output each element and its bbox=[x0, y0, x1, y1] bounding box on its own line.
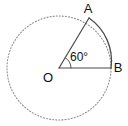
label-angle-measure: 60° bbox=[70, 50, 88, 64]
label-point-o-center: O bbox=[43, 70, 53, 85]
label-point-a: A bbox=[84, 1, 93, 16]
circle-diagram-svg: A B O 60° bbox=[0, 0, 128, 126]
label-point-b: B bbox=[114, 60, 123, 75]
geometry-figure: A B O 60° bbox=[0, 0, 128, 126]
arc-ab-solid bbox=[89, 18, 111, 68]
